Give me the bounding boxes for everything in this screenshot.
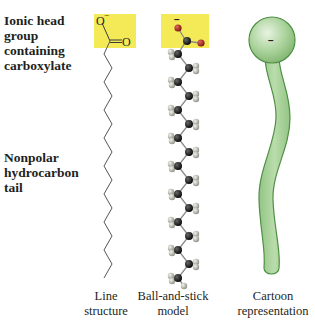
- ch2-left: [168, 245, 182, 256]
- line-structure: [94, 14, 136, 278]
- ch2-left: [168, 189, 182, 200]
- ch2-right: [185, 91, 199, 102]
- caption-ballstick-2: model: [133, 304, 213, 319]
- ch2-right: [185, 63, 199, 74]
- ch3-terminal: [168, 273, 187, 289]
- cartoon-charge: −: [268, 35, 274, 46]
- ch2-left: [168, 217, 182, 228]
- soap-molecule-diagram: O − O: [0, 0, 315, 323]
- caption-line-1: Line: [76, 289, 136, 304]
- caption-line-2: structure: [76, 304, 136, 319]
- caption-line-structure: Line structure: [76, 289, 136, 319]
- cartoon-tail: [259, 58, 290, 274]
- ch2-right: [185, 175, 199, 186]
- ballstick-charge: −: [174, 14, 180, 25]
- ch2-left: [168, 161, 182, 172]
- ch2-right: [185, 147, 199, 158]
- ch2-right: [185, 259, 199, 270]
- ch2-right: [185, 119, 199, 130]
- caption-cartoon-2: representation: [228, 304, 315, 319]
- caption-cartoon-1: Cartoon: [228, 289, 315, 304]
- ch2-right: [185, 231, 199, 242]
- caption-ballstick-1: Ball-and-stick: [133, 289, 213, 304]
- line-tail-zigzag: [104, 41, 112, 278]
- ch2-left: [168, 105, 182, 116]
- caption-cartoon: Cartoon representation: [228, 289, 315, 319]
- ch2-left: [168, 77, 182, 88]
- carbon-atom: [183, 37, 191, 45]
- ch2-left: [168, 133, 182, 144]
- ch2-right: [185, 203, 199, 214]
- line-o-double: O: [122, 35, 131, 49]
- oxygen-atom: [197, 39, 204, 46]
- cartoon-representation: [249, 17, 295, 274]
- ch2-left: [168, 49, 182, 60]
- caption-ball-and-stick: Ball-and-stick model: [133, 289, 213, 319]
- oxygen-atom: [174, 24, 181, 31]
- line-o-minus-charge: −: [104, 10, 109, 20]
- ball-and-stick-model: [161, 14, 209, 289]
